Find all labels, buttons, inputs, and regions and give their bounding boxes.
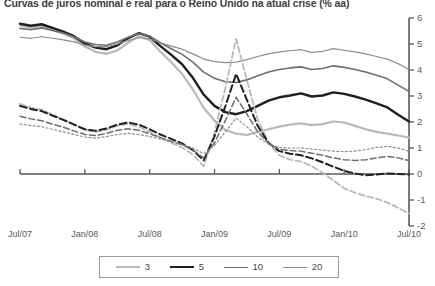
y-axis: -2-10123456 <box>409 12 425 231</box>
y-tick-label: 3 <box>417 90 422 101</box>
legend-label: 3 <box>145 262 150 272</box>
x-axis-tick-labels: Jul/07Jan/08Jul/08Jan/09Jul/09Jan/10Jul/… <box>8 229 421 239</box>
chart-figure: Curvas de juros nominal e real para o Re… <box>0 0 435 286</box>
legend-item-5[interactable]: 5 <box>170 262 204 272</box>
legend-swatch-icon <box>224 267 248 268</box>
x-tick-label: Jul/09 <box>267 229 291 239</box>
legend-swatch-icon <box>116 266 140 268</box>
legend-item-20[interactable]: 20 <box>283 262 323 272</box>
x-tick-label: Jan/10 <box>331 229 358 239</box>
series-line-3-real <box>20 39 409 214</box>
y-tick-label: -2 <box>417 220 425 231</box>
y-tick-label: 1 <box>417 142 422 153</box>
legend-swatch-icon <box>283 267 307 268</box>
y-tick-label: 2 <box>417 116 422 127</box>
y-tick-label: -1 <box>417 194 425 205</box>
y-tick-label: 5 <box>417 38 422 49</box>
y-tick-label: 6 <box>417 12 422 23</box>
legend-item-3[interactable]: 3 <box>116 262 150 272</box>
legend-label: 20 <box>312 262 323 272</box>
x-tick-label: Jul/07 <box>8 229 32 239</box>
y-tick-label: 4 <box>417 64 422 75</box>
series-line-3 <box>20 25 409 137</box>
legend-label: 10 <box>253 262 264 272</box>
legend-item-10[interactable]: 10 <box>224 262 264 272</box>
x-tick-label: Jan/08 <box>71 229 98 239</box>
chart-legend: 351020 <box>99 256 339 278</box>
series-line-10 <box>20 28 409 91</box>
x-tick-label: Jan/09 <box>201 229 228 239</box>
series-lines <box>20 24 409 214</box>
x-tick-label: Jul/08 <box>138 229 162 239</box>
y-tick-label: 0 <box>417 168 422 179</box>
legend-swatch-icon <box>170 266 194 268</box>
legend-label: 5 <box>199 262 204 272</box>
line-chart-plot: Jul/07Jan/08Jul/08Jan/09Jul/09Jan/10Jul/… <box>0 0 435 286</box>
